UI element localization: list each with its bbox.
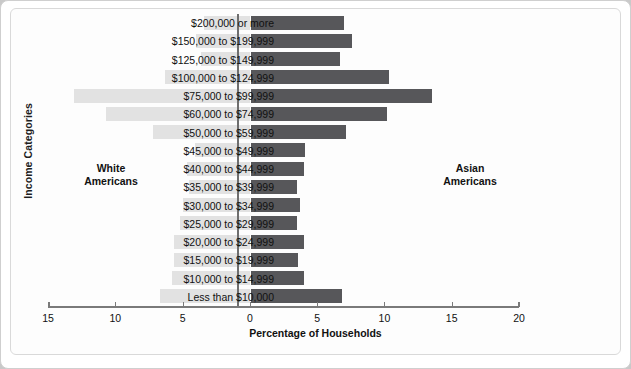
y-axis-title-text: Income Categories: [22, 103, 34, 199]
x-axis-tick: [250, 302, 251, 307]
bar-row: [48, 87, 519, 105]
bar-row: [48, 69, 519, 87]
category-label: $60,000 to $74,999: [121, 105, 279, 123]
x-axis-tick: [48, 302, 49, 307]
x-axis-tick-label: 20: [513, 312, 525, 324]
category-label: $25,000 to $29,999: [121, 215, 279, 233]
y-axis-title: Income Categories: [19, 1, 37, 301]
category-label: $200,000 or more: [121, 14, 279, 32]
x-axis-tick: [384, 302, 385, 307]
category-label-column: $200,000 or more$150,000 to $199,999$125…: [121, 14, 279, 306]
category-label: $30,000 to $34,999: [121, 197, 279, 215]
bar-row: [48, 142, 519, 160]
bar-row: [48, 233, 519, 251]
group-label-asian-line2: Americans: [405, 175, 535, 188]
group-label-white-line1: White: [51, 162, 171, 175]
x-axis-tick: [115, 302, 116, 307]
bar-row: [48, 215, 519, 233]
category-label: $125,000 to $149,999: [121, 51, 279, 69]
category-label: $20,000 to $24,999: [121, 233, 279, 251]
x-axis-tick: [519, 302, 520, 307]
category-label: $50,000 to $59,999: [121, 124, 279, 142]
x-axis-tick-label: 5: [180, 312, 186, 324]
x-axis-tick: [317, 302, 318, 307]
x-axis-tick-label: 15: [42, 312, 54, 324]
x-axis-tick-label: 10: [379, 312, 391, 324]
bar-row: [48, 32, 519, 50]
bar-row: [48, 197, 519, 215]
x-axis-tick: [183, 302, 184, 307]
category-label: Less than $10,000: [121, 288, 279, 306]
category-label: $100,000 to $124,999: [121, 69, 279, 87]
group-label-white-americans: White Americans: [51, 162, 171, 187]
x-axis-tick-label: 10: [109, 312, 121, 324]
group-label-white-line2: Americans: [51, 175, 171, 188]
category-label: $45,000 to $49,999: [121, 142, 279, 160]
x-axis: 1510505101520: [48, 306, 519, 308]
bar-row: [48, 124, 519, 142]
bar-row: [48, 105, 519, 123]
x-axis-tick-label: 15: [446, 312, 458, 324]
group-label-asian-line1: Asian: [405, 162, 535, 175]
plot-area: [48, 14, 519, 306]
x-axis-title: Percentage of Households: [1, 327, 630, 339]
x-axis-tick: [452, 302, 453, 307]
group-label-asian-americans: Asian Americans: [405, 162, 535, 187]
category-label: $150,000 to $199,999: [121, 32, 279, 50]
bar-row: [48, 251, 519, 269]
x-axis-tick-label: 5: [314, 312, 320, 324]
category-label: $10,000 to $14,999: [121, 270, 279, 288]
bar-row: [48, 288, 519, 306]
category-label: $15,000 to $19,999: [121, 251, 279, 269]
chart-frame: Income Categories $200,000 or more$150,0…: [0, 0, 631, 369]
bar-row: [48, 51, 519, 69]
x-axis-tick-label: 0: [247, 312, 253, 324]
bar-row: [48, 270, 519, 288]
bar-row: [48, 14, 519, 32]
category-label: $75,000 to $99,999: [121, 87, 279, 105]
